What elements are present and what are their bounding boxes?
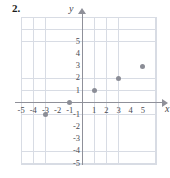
grid-right-edge — [156, 17, 157, 165]
coordinate-plane-figure: 2. x y -5-4-3-2-112345 54321-1-2-3-4-5 — [0, 0, 170, 178]
y-axis-label: y — [69, 3, 73, 14]
y-tick-label: -2 — [68, 121, 80, 131]
y-axis-arrow-icon — [78, 8, 86, 14]
x-tick-label: 4 — [125, 105, 137, 115]
x-axis-label: x — [165, 103, 169, 114]
grid-bottom-edge — [21, 164, 157, 165]
y-axis-line — [82, 11, 83, 165]
y-tick-label: -4 — [68, 145, 80, 155]
y-tick-label: -5 — [68, 158, 80, 168]
y-tick-label: 5 — [68, 36, 80, 46]
x-tick-label: 1 — [88, 105, 100, 115]
y-tick-label: 1 — [68, 85, 80, 95]
x-tick-label: -5 — [15, 105, 27, 115]
plot-area: x y -5-4-3-2-112345 54321-1-2-3-4-5 — [21, 17, 157, 165]
exercise-number-label: 2. — [12, 2, 20, 14]
y-tick-label: 3 — [68, 60, 80, 70]
x-tick-label: 3 — [113, 105, 125, 115]
y-tick-label: 4 — [68, 48, 80, 58]
x-axis-line — [15, 102, 163, 103]
data-point — [92, 88, 97, 93]
y-tick-label: 2 — [68, 72, 80, 82]
x-tick-label: -4 — [27, 105, 39, 115]
y-tick-label: -3 — [68, 133, 80, 143]
x-tick-label: 5 — [137, 105, 149, 115]
x-tick-label: -2 — [52, 105, 64, 115]
grid-lines — [21, 17, 157, 165]
data-point — [116, 76, 121, 81]
y-tick-label: -1 — [68, 109, 80, 119]
x-tick-label: 2 — [100, 105, 112, 115]
